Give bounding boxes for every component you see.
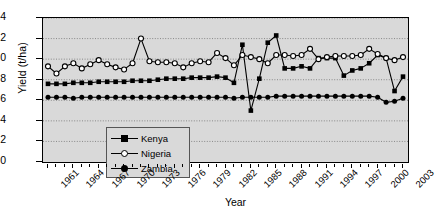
data-point-zambia [155,95,160,100]
data-point-zambia [189,95,194,100]
data-point-kenya [265,40,270,45]
data-point-kenya [257,76,262,81]
legend-item-kenya[interactable]: Kenya [110,131,186,146]
data-point-kenya [46,82,51,87]
x-tick-mark [275,164,276,168]
data-point-kenya [130,78,135,83]
x-tick-mark [47,164,48,168]
data-point-zambia [299,94,304,99]
x-tick-mark [174,164,175,168]
data-point-zambia [231,96,236,101]
data-point-zambia [316,94,321,99]
data-point-nigeria [130,61,135,66]
data-point-nigeria [223,56,228,61]
data-point-nigeria [401,55,406,60]
x-tick-mark [81,164,82,167]
x-tick-mark [250,164,251,168]
x-tick-label: 1979 [210,167,233,190]
x-tick-mark [55,164,56,167]
data-point-kenya [249,108,254,113]
data-point-kenya [139,78,144,83]
data-point-zambia [113,95,118,100]
data-point-nigeria [96,58,101,63]
data-point-zambia [358,94,363,99]
data-point-nigeria [62,64,67,69]
data-point-zambia [401,96,406,101]
data-point-nigeria [181,65,186,70]
x-tick-mark [284,164,285,167]
y-tick-label: 4 [0,114,6,125]
data-point-zambia [282,94,287,99]
data-point-nigeria [71,61,76,66]
data-point-kenya [80,81,85,86]
data-point-zambia [384,100,389,105]
data-point-nigeria [155,60,160,65]
legend-key-square-icon [110,133,139,145]
data-point-nigeria [358,53,363,58]
data-point-zambia [206,95,211,100]
y-tick-label: 6 [0,93,6,104]
data-point-kenya [342,73,347,78]
data-point-nigeria [257,57,262,62]
data-point-nigeria [122,67,127,72]
data-point-nigeria [333,54,338,59]
data-point-nigeria [299,53,304,58]
x-tick-label: 1988 [286,167,309,190]
x-tick-label: 1991 [312,167,335,190]
data-point-kenya [96,79,101,84]
data-point-nigeria [308,46,313,51]
data-point-nigeria [88,62,93,67]
data-point-zambia [248,95,253,100]
data-point-kenya [274,33,279,38]
data-point-zambia [274,94,279,99]
data-point-nigeria [265,61,270,66]
x-tick-mark [140,164,141,167]
data-point-zambia [122,95,127,100]
legend-key-open-circle-icon [110,148,139,160]
x-axis-title: Year [0,196,419,208]
legend-item-nigeria[interactable]: Nigeria [110,146,186,161]
data-point-kenya [172,76,177,81]
data-point-zambia [164,95,169,100]
x-tick-mark [132,164,133,167]
x-tick-mark [385,164,386,167]
data-point-kenya [156,77,161,82]
x-tick-mark [98,164,99,168]
data-point-zambia [240,95,245,100]
data-point-nigeria [54,71,59,76]
data-point-zambia [375,95,380,100]
data-point-kenya [198,75,203,80]
data-point-kenya [401,74,406,79]
data-point-nigeria [113,65,118,70]
data-point-kenya [164,76,169,81]
data-point-zambia [130,95,135,100]
data-point-zambia [79,95,84,100]
data-point-nigeria [274,53,279,58]
data-point-kenya [122,79,127,84]
data-point-nigeria [215,50,220,55]
data-point-zambia [181,95,186,100]
y-tick-label: 10 [0,52,6,63]
data-point-nigeria [316,57,321,62]
x-tick-mark [241,164,242,167]
data-point-kenya [308,66,313,71]
x-tick-mark [208,164,209,167]
data-point-kenya [215,74,220,79]
data-point-kenya [282,66,287,71]
data-point-nigeria [384,56,389,61]
x-tick-mark [402,164,403,168]
x-tick-mark [64,164,65,167]
legend-label: Nigeria [139,148,171,159]
data-point-kenya [147,78,152,83]
data-point-nigeria [350,54,355,59]
x-tick-mark [182,164,183,167]
data-point-zambia [96,95,101,100]
x-tick-mark [394,164,395,167]
data-point-kenya [71,81,76,86]
data-point-kenya [88,81,93,86]
y-tick-label: 0 [0,155,6,166]
x-tick-label: 1964 [84,167,107,190]
data-point-nigeria [147,59,152,64]
plot-area: Kenya Nigeria Zambia [42,17,409,163]
data-point-nigeria [375,52,380,57]
